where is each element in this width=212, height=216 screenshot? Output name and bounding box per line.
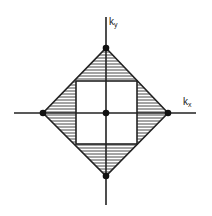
top-vertex-point bbox=[103, 45, 110, 52]
bottom-vertex-point bbox=[103, 173, 110, 180]
right-vertex-point bbox=[165, 110, 172, 117]
kx-label-sub: x bbox=[188, 101, 192, 108]
kx-axis-label: kx bbox=[183, 96, 192, 108]
left-vertex-point bbox=[40, 110, 47, 117]
diagram-canvas bbox=[0, 0, 212, 216]
origin-point bbox=[103, 110, 110, 117]
ky-label-sub: y bbox=[114, 21, 118, 28]
ky-axis-label: ky bbox=[109, 16, 118, 28]
